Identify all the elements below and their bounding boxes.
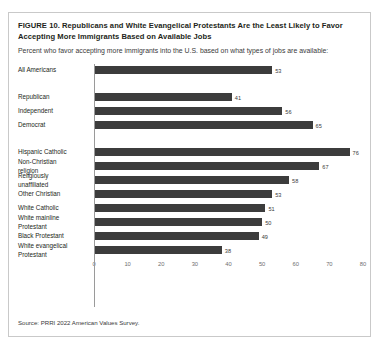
bar-category-label: White Catholic <box>18 204 94 213</box>
bar-category-label: Black Protestant <box>18 232 94 241</box>
bar-row: White evangelical Protestant38 <box>18 244 363 258</box>
bar-category-label: Independent <box>18 107 94 116</box>
x-axis-tick: 60 <box>293 261 299 267</box>
bar-plot-cell: 50 <box>94 216 363 230</box>
bar-row: All Americans53 <box>18 64 363 78</box>
bar-plot-cell: 56 <box>94 105 363 119</box>
bar-value-label: 53 <box>272 68 281 74</box>
figure-subtitle: Percent who favor accepting more immigra… <box>18 46 361 55</box>
bar-track: 53 <box>94 64 363 78</box>
bar-value-label: 76 <box>350 150 359 156</box>
bar-track: 49 <box>94 230 363 244</box>
bar-track: 53 <box>94 188 363 202</box>
bar-plot-cell: 58 <box>94 174 363 188</box>
bar-rows: All Americans53Republican41Independent56… <box>18 64 363 258</box>
bar-track: 67 <box>94 160 363 174</box>
bar-value-label: 67 <box>319 164 328 170</box>
bar-row: Republican41 <box>18 91 363 105</box>
bar <box>94 121 313 130</box>
x-axis-tick: 10 <box>124 261 130 267</box>
bar-category-label: White evangelical Protestant <box>18 242 94 260</box>
bar <box>94 176 289 185</box>
x-axis-tick: 30 <box>192 261 198 267</box>
bar-plot-cell: 53 <box>94 188 363 202</box>
bar-plot-cell: 41 <box>94 91 363 105</box>
bar-value-label: 49 <box>259 234 268 240</box>
bar-plot-cell: 67 <box>94 160 363 174</box>
bar <box>94 66 272 75</box>
bar-value-label: 41 <box>232 95 241 101</box>
bar-row: White mainline Protestant50 <box>18 216 363 230</box>
bar-category-label: All Americans <box>18 66 94 75</box>
bar-category-label: Hispanic Catholic <box>18 148 94 157</box>
bar-track: 58 <box>94 174 363 188</box>
bar-track: 56 <box>94 105 363 119</box>
bar <box>94 107 282 116</box>
bar-track: 38 <box>94 244 363 258</box>
bar <box>94 204 265 213</box>
bar-row: Religiously unaffiliated58 <box>18 174 363 188</box>
bar-value-label: 58 <box>289 178 298 184</box>
bar-track: 50 <box>94 216 363 230</box>
bar-track: 41 <box>94 91 363 105</box>
bar-category-label: Other Christian <box>18 190 94 199</box>
bar <box>94 232 259 241</box>
bar <box>94 162 319 171</box>
bar-plot-cell: 49 <box>94 230 363 244</box>
bar-row: Democrat65 <box>18 119 363 133</box>
bar-row: Other Christian53 <box>18 188 363 202</box>
bar <box>94 246 222 255</box>
bar-value-label: 53 <box>272 192 281 198</box>
bar-category-label: Republican <box>18 93 94 102</box>
bar-value-label: 50 <box>262 220 271 226</box>
bar <box>94 93 232 102</box>
bar-value-label: 38 <box>222 248 231 254</box>
x-axis-tick: 40 <box>225 261 231 267</box>
bar-plot-cell: 38 <box>94 244 363 258</box>
bar-value-label: 65 <box>313 123 322 129</box>
x-axis: 01020304050607080 <box>94 258 363 272</box>
source-note: Source: PRRI 2022 American Values Survey… <box>18 319 139 326</box>
bar-plot-cell: 65 <box>94 119 363 133</box>
bar-plot-cell: 51 <box>94 202 363 216</box>
bar-plot-cell: 76 <box>94 146 363 160</box>
bar <box>94 218 262 227</box>
bar-value-label: 51 <box>265 206 274 212</box>
bar <box>94 190 272 199</box>
x-axis-tick: 80 <box>360 261 366 267</box>
bar <box>94 148 350 157</box>
bar-track: 65 <box>94 119 363 133</box>
y-axis-line <box>94 64 95 307</box>
bar-row: Independent56 <box>18 105 363 119</box>
x-axis-tick: 50 <box>259 261 265 267</box>
bar-track: 76 <box>94 146 363 160</box>
figure-card: FIGURE 10. Republicans and White Evangel… <box>8 12 371 337</box>
x-axis-tick: 70 <box>326 261 332 267</box>
bar-plot-cell: 53 <box>94 64 363 78</box>
bar-category-label: Democrat <box>18 121 94 130</box>
bar-chart: All Americans53Republican41Independent56… <box>18 64 363 307</box>
figure-title: FIGURE 10. Republicans and White Evangel… <box>18 21 361 43</box>
x-axis-tick: 20 <box>158 261 164 267</box>
bar-track: 51 <box>94 202 363 216</box>
bar-value-label: 56 <box>282 109 291 115</box>
